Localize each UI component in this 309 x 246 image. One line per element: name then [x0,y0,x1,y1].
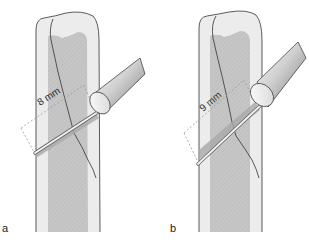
panel-a: 8 mm a [2,12,145,234]
panel-label-b: b [170,222,176,234]
panel-label-a: a [2,222,9,234]
figure-canvas: 8 mm a 9 mm b [0,0,309,246]
panel-b: 9 mm b [170,11,306,234]
